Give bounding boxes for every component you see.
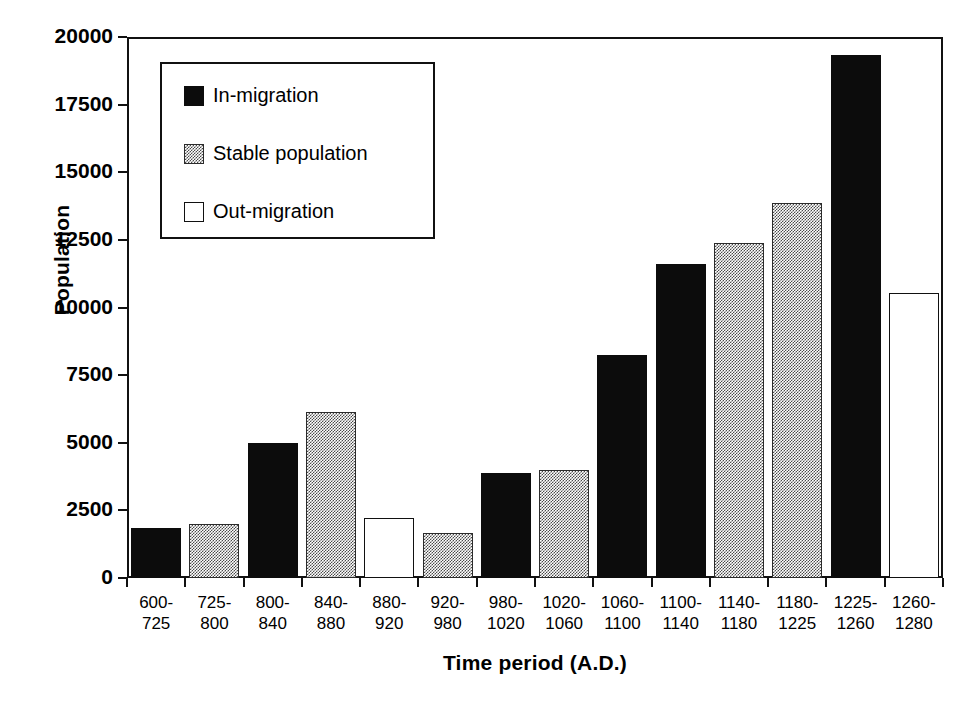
bar — [423, 533, 473, 578]
legend-label-in-migration: In-migration — [213, 84, 319, 107]
bar — [539, 470, 589, 578]
x-tick-mark — [942, 578, 944, 587]
x-tick-mark — [825, 578, 827, 587]
x-tick-label: 1180-1225 — [768, 592, 826, 634]
x-tick-mark — [534, 578, 536, 587]
bar — [656, 264, 706, 578]
x-tick-label: 920-980 — [418, 592, 476, 634]
bar — [189, 524, 239, 578]
x-tick-mark — [884, 578, 886, 587]
bar — [597, 355, 647, 578]
population-bar-chart: Population Time period (A.D.) 0250050007… — [0, 0, 972, 701]
x-tick-mark — [184, 578, 186, 587]
y-tick-label: 17500 — [55, 92, 113, 116]
x-tick-label: 1140-1180 — [710, 592, 768, 634]
x-tick-mark — [243, 578, 245, 587]
bar — [831, 55, 881, 578]
x-tick-mark — [417, 578, 419, 587]
x-tick-mark — [126, 578, 128, 587]
x-tick-label: 1100-1140 — [652, 592, 710, 634]
legend-swatch-white-icon — [184, 202, 204, 222]
y-tick-mark — [118, 171, 127, 173]
bar — [889, 293, 939, 578]
bar — [364, 518, 414, 578]
x-tick-label: 1225-1260 — [826, 592, 884, 634]
y-tick-label: 20000 — [55, 24, 113, 48]
y-tick-mark — [118, 239, 127, 241]
x-tick-mark — [359, 578, 361, 587]
bar — [481, 473, 531, 578]
bar — [772, 203, 822, 578]
y-tick-mark — [118, 104, 127, 106]
x-tick-label: 980-1020 — [477, 592, 535, 634]
legend-label-stable-population: Stable population — [213, 142, 368, 165]
bar — [131, 528, 181, 578]
legend-swatch-black-icon — [184, 86, 204, 106]
y-tick-label: 10000 — [55, 295, 113, 319]
x-axis-title: Time period (A.D.) — [127, 651, 943, 675]
y-tick-label: 12500 — [55, 227, 113, 251]
y-tick-mark — [118, 307, 127, 309]
y-tick-label: 7500 — [66, 362, 113, 386]
x-tick-mark — [476, 578, 478, 587]
x-tick-label: 1260-1280 — [885, 592, 943, 634]
x-tick-label: 880-920 — [360, 592, 418, 634]
y-tick-label: 0 — [101, 565, 113, 589]
x-tick-mark — [767, 578, 769, 587]
chart-legend: In-migration Stable population Out-migra… — [160, 62, 435, 239]
y-tick-mark — [118, 442, 127, 444]
legend-item-in-migration: In-migration — [184, 84, 319, 107]
x-tick-label: 725-800 — [185, 592, 243, 634]
y-tick-mark — [118, 36, 127, 38]
x-tick-mark — [651, 578, 653, 587]
y-tick-label: 2500 — [66, 497, 113, 521]
y-tick-mark — [118, 374, 127, 376]
legend-swatch-gray-icon — [184, 144, 204, 164]
x-tick-label: 1020-1060 — [535, 592, 593, 634]
x-tick-label: 840-880 — [302, 592, 360, 634]
y-tick-label: 15000 — [55, 159, 113, 183]
bar — [248, 443, 298, 578]
bar — [306, 412, 356, 578]
y-tick-label: 5000 — [66, 430, 113, 454]
x-tick-mark — [709, 578, 711, 587]
legend-item-stable-population: Stable population — [184, 142, 368, 165]
x-tick-mark — [592, 578, 594, 587]
x-tick-label: 800-840 — [244, 592, 302, 634]
legend-item-out-migration: Out-migration — [184, 200, 334, 223]
legend-label-out-migration: Out-migration — [213, 200, 334, 223]
x-tick-mark — [301, 578, 303, 587]
y-tick-mark — [118, 509, 127, 511]
x-tick-label: 600-725 — [127, 592, 185, 634]
x-tick-label: 1060-1100 — [593, 592, 651, 634]
bar — [714, 243, 764, 578]
